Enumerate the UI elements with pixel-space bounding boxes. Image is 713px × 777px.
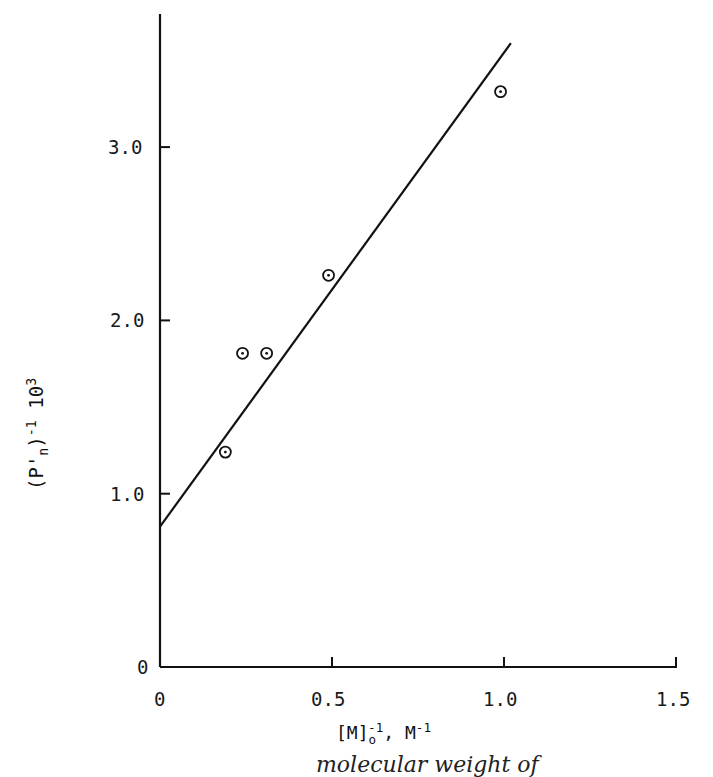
x-axis-label: [M]o-1, M-1 xyxy=(336,720,431,747)
fit-line xyxy=(160,43,511,527)
x-tick-label-1: 0.5 xyxy=(311,688,345,710)
x-tick-label-3: 1.5 xyxy=(656,688,690,710)
y-tick-label-0: 0 xyxy=(137,656,148,678)
figure-caption-partial: molecular weight of xyxy=(316,752,539,777)
y-axis-label: (P'n)-1 103 xyxy=(24,310,51,490)
y-tick-label-1: 1.0 xyxy=(110,483,144,505)
axis-ticks xyxy=(160,147,676,667)
y-tick-label-3: 3.0 xyxy=(108,136,142,158)
x-tick-label-0: 0 xyxy=(154,688,165,710)
y-tick-label-2: 2.0 xyxy=(110,309,144,331)
data-points xyxy=(220,86,506,457)
x-tick-label-2: 1.0 xyxy=(483,688,517,710)
